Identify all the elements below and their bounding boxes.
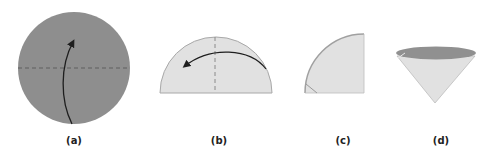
cone-body [397, 56, 475, 103]
panel-b-semicircle [160, 37, 272, 93]
panel-d-label: (d) [433, 135, 449, 146]
panel-d-cone [396, 47, 476, 104]
panel-a-circle [18, 12, 130, 124]
paper-semicircle [160, 37, 272, 93]
panel-c-quarter-circle [305, 34, 364, 93]
folding-diagram: (a) (b) (c) (d) [0, 0, 484, 162]
panel-c-label: (c) [335, 135, 350, 146]
panel-b-label: (b) [211, 135, 227, 146]
cone-top-opening [396, 47, 476, 60]
paper-quarter [305, 34, 364, 93]
panel-a-label: (a) [66, 135, 82, 146]
